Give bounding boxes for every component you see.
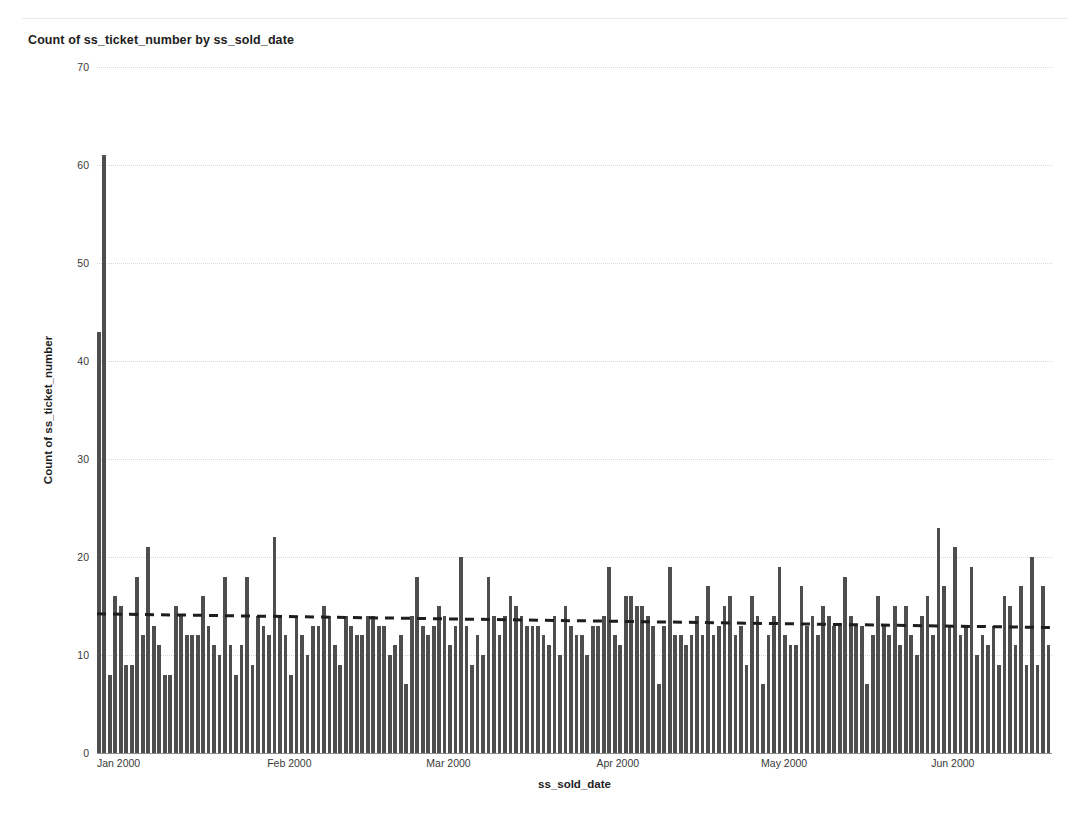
bar[interactable]: [146, 547, 150, 753]
bar[interactable]: [816, 635, 820, 753]
bar[interactable]: [569, 626, 573, 753]
bar[interactable]: [992, 626, 996, 753]
bar[interactable]: [575, 635, 579, 753]
bar[interactable]: [964, 626, 968, 753]
bar[interactable]: [547, 645, 551, 753]
bar[interactable]: [371, 616, 375, 753]
bar[interactable]: [805, 626, 809, 753]
bar[interactable]: [426, 635, 430, 753]
bar[interactable]: [168, 675, 172, 753]
bar[interactable]: [338, 665, 342, 753]
bar[interactable]: [668, 567, 672, 753]
bar[interactable]: [821, 606, 825, 753]
bar[interactable]: [509, 596, 513, 753]
bar[interactable]: [311, 626, 315, 753]
bar[interactable]: [306, 655, 310, 753]
bar[interactable]: [333, 645, 337, 753]
bar[interactable]: [635, 606, 639, 753]
bar[interactable]: [262, 626, 266, 753]
bar[interactable]: [102, 155, 106, 753]
bar[interactable]: [876, 596, 880, 753]
bar[interactable]: [783, 635, 787, 753]
bar[interactable]: [328, 616, 332, 753]
bar[interactable]: [701, 635, 705, 753]
bar[interactable]: [234, 675, 238, 753]
bar[interactable]: [827, 616, 831, 753]
bar[interactable]: [119, 606, 123, 753]
bar[interactable]: [465, 626, 469, 753]
bar[interactable]: [196, 635, 200, 753]
bar[interactable]: [800, 586, 804, 753]
bar[interactable]: [640, 606, 644, 753]
bar[interactable]: [525, 626, 529, 753]
bar[interactable]: [163, 675, 167, 753]
bar[interactable]: [300, 635, 304, 753]
bar[interactable]: [459, 557, 463, 753]
bar[interactable]: [931, 635, 935, 753]
bar[interactable]: [970, 567, 974, 753]
bar[interactable]: [355, 635, 359, 753]
bar[interactable]: [273, 537, 277, 753]
bar[interactable]: [882, 626, 886, 753]
bar[interactable]: [487, 577, 491, 753]
bar[interactable]: [920, 616, 924, 753]
bar[interactable]: [646, 616, 650, 753]
bar[interactable]: [893, 606, 897, 753]
bar[interactable]: [141, 635, 145, 753]
bar[interactable]: [564, 606, 568, 753]
bar[interactable]: [832, 626, 836, 753]
bar[interactable]: [267, 635, 271, 753]
bar[interactable]: [317, 626, 321, 753]
bar[interactable]: [789, 645, 793, 753]
bar[interactable]: [618, 645, 622, 753]
bar[interactable]: [728, 596, 732, 753]
bar[interactable]: [651, 626, 655, 753]
bar[interactable]: [591, 626, 595, 753]
bar[interactable]: [190, 635, 194, 753]
bar[interactable]: [421, 626, 425, 753]
bar[interactable]: [454, 626, 458, 753]
bar[interactable]: [811, 616, 815, 753]
bar[interactable]: [245, 577, 249, 753]
bar[interactable]: [904, 606, 908, 753]
bar[interactable]: [322, 606, 326, 753]
bar[interactable]: [926, 596, 930, 753]
bar[interactable]: [201, 596, 205, 753]
bar[interactable]: [388, 655, 392, 753]
bar[interactable]: [975, 655, 979, 753]
bar[interactable]: [448, 645, 452, 753]
bar[interactable]: [251, 665, 255, 753]
bar[interactable]: [207, 626, 211, 753]
bar[interactable]: [761, 684, 765, 753]
bar[interactable]: [673, 635, 677, 753]
bar[interactable]: [1036, 665, 1040, 753]
bar[interactable]: [124, 665, 128, 753]
bar[interactable]: [476, 635, 480, 753]
bar-series[interactable]: [97, 67, 1052, 753]
bar[interactable]: [657, 684, 661, 753]
bar[interactable]: [986, 645, 990, 753]
bar[interactable]: [854, 626, 858, 753]
bar[interactable]: [179, 616, 183, 753]
bar[interactable]: [909, 635, 913, 753]
bar[interactable]: [514, 606, 518, 753]
bar[interactable]: [745, 665, 749, 753]
bar[interactable]: [404, 684, 408, 753]
bar[interactable]: [185, 635, 189, 753]
bar[interactable]: [531, 626, 535, 753]
bar[interactable]: [942, 586, 946, 753]
bar[interactable]: [838, 626, 842, 753]
bar[interactable]: [393, 645, 397, 753]
bar[interactable]: [734, 635, 738, 753]
bar[interactable]: [223, 577, 227, 753]
bar[interactable]: [580, 635, 584, 753]
bar[interactable]: [1025, 665, 1029, 753]
bar[interactable]: [767, 635, 771, 753]
bar[interactable]: [794, 645, 798, 753]
bar[interactable]: [717, 626, 721, 753]
bar[interactable]: [1030, 557, 1034, 753]
bar[interactable]: [174, 606, 178, 753]
bar[interactable]: [1019, 586, 1023, 753]
bar[interactable]: [410, 616, 414, 753]
bar[interactable]: [679, 635, 683, 753]
